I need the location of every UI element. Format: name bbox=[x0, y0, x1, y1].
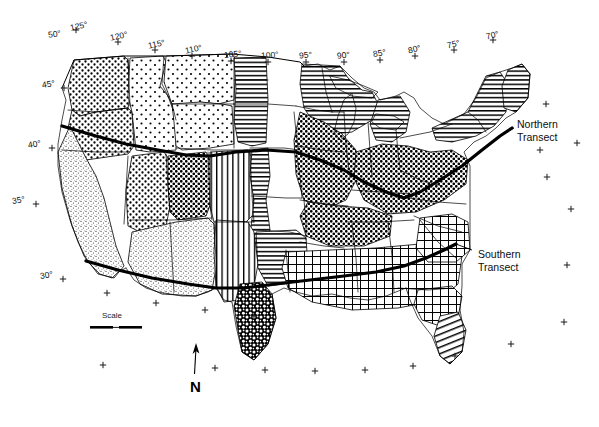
longitude-label: 105° bbox=[224, 49, 242, 59]
scale-bar-segment bbox=[119, 326, 142, 329]
longitude-label: 95° bbox=[299, 51, 312, 60]
region-washington bbox=[68, 56, 130, 116]
region-montana bbox=[164, 54, 236, 106]
scale-bar-midtick bbox=[113, 327, 119, 328]
longitude-label: 85° bbox=[372, 48, 386, 59]
latitude-label: 50° bbox=[47, 29, 61, 39]
southern-transect-label: Southern Transect bbox=[478, 248, 521, 273]
latitude-label: 40° bbox=[27, 139, 41, 150]
scale-bar-label: Scale bbox=[102, 311, 122, 320]
northern-transect-label: Northern Transect bbox=[517, 118, 558, 143]
region-dakotas-hatch bbox=[234, 57, 268, 146]
longitude-label: 90° bbox=[337, 50, 351, 60]
region-colorado bbox=[210, 150, 254, 222]
region-utah bbox=[168, 152, 212, 220]
region-southeast-crosshatch bbox=[416, 214, 470, 262]
longitude-label: 100° bbox=[261, 50, 279, 60]
latitude-label: 45° bbox=[41, 79, 55, 90]
northern-transect-line2: Transect bbox=[517, 131, 558, 144]
map-canvas bbox=[0, 0, 599, 427]
southern-transect-line2: Transect bbox=[478, 261, 521, 274]
region-wyoming bbox=[172, 102, 234, 150]
latitude-label: 35° bbox=[11, 195, 25, 206]
southern-transect-line1: Southern bbox=[478, 248, 521, 261]
scale-bar-segment bbox=[90, 326, 113, 329]
us-thematic-map-figure: 125°120°115°110°105°100°95°90°85°80°75°7… bbox=[0, 0, 599, 427]
northern-transect-line1: Northern bbox=[517, 118, 558, 131]
latitude-label: 30° bbox=[39, 270, 53, 281]
north-arrow-label: N bbox=[190, 378, 201, 395]
